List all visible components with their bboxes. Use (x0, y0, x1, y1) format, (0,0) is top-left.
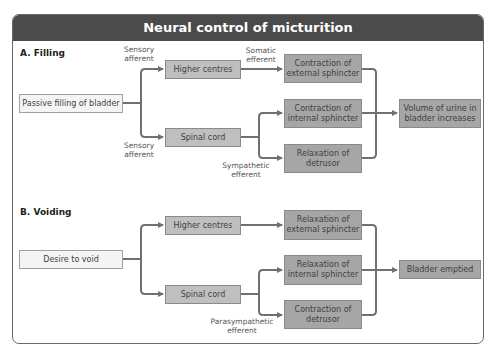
label-sensory-afferent-bottom: Sensory afferent (118, 141, 160, 159)
label-parasympathetic-efferent: Parasympathetic efferent (208, 317, 276, 335)
box-relaxation-external-sphincter: Relaxation of external sphincter (284, 210, 362, 240)
box-passive-filling: Passive filling of bladder (19, 94, 123, 113)
label-sympathetic-efferent: Sympathetic efferent (218, 161, 274, 179)
box-higher-centres-filling: Higher centres (165, 60, 241, 79)
box-spinal-cord-filling: Spinal cord (165, 128, 241, 147)
box-spinal-cord-voiding: Spinal cord (165, 285, 241, 304)
box-volume-increases: Volume of urine in bladder increases (399, 99, 481, 128)
label-sensory-afferent-top: Sensory afferent (118, 45, 160, 63)
section-label-filling: A. Filling (20, 48, 65, 58)
box-relaxation-detrusor: Relaxation of detrusor (284, 144, 362, 173)
box-contraction-external-sphincter: Contraction of external sphincter (284, 54, 362, 83)
box-higher-centres-voiding: Higher centres (165, 216, 241, 235)
section-label-voiding: B. Voiding (20, 207, 72, 217)
box-desire-to-void: Desire to void (19, 250, 123, 269)
box-relaxation-internal-sphincter: Relaxation of internal sphincter (284, 255, 362, 285)
box-contraction-internal-sphincter: Contraction of internal sphincter (284, 99, 362, 128)
box-bladder-emptied: Bladder emptied (399, 260, 481, 279)
label-somatic-efferent: Somatic efferent (240, 46, 282, 64)
box-contraction-detrusor: Contraction of detrusor (284, 300, 362, 329)
